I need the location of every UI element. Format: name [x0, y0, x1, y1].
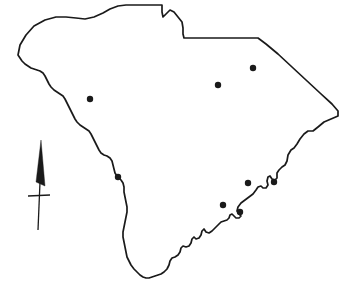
map-canvas — [0, 0, 346, 289]
site-marker[interactable] — [87, 96, 93, 102]
site-marker[interactable] — [245, 180, 251, 186]
map-background — [0, 0, 346, 289]
site-marker[interactable] — [215, 82, 221, 88]
south-carolina-point-map-figure — [0, 0, 346, 289]
site-marker[interactable] — [237, 209, 243, 215]
site-marker[interactable] — [115, 174, 121, 180]
site-marker[interactable] — [220, 202, 226, 208]
site-marker[interactable] — [250, 65, 256, 71]
site-marker[interactable] — [271, 179, 277, 185]
